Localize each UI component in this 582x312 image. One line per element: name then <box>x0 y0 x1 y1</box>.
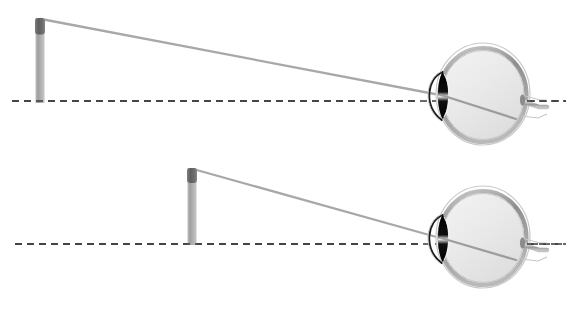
diagram-canvas <box>0 0 582 312</box>
optics-diagram-svg <box>0 0 582 312</box>
far-object-arrow <box>35 18 45 103</box>
near-object-arrow <box>187 168 197 245</box>
